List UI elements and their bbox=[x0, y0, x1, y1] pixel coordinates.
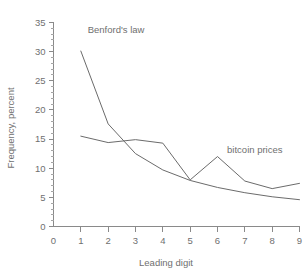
series-lines bbox=[81, 51, 300, 200]
y-tick-label: 35 bbox=[35, 17, 46, 28]
x-tick-label: 5 bbox=[188, 235, 193, 246]
y-tick-label: 30 bbox=[35, 46, 46, 57]
x-tick-label: 0 bbox=[51, 235, 56, 246]
y-axis: 05101520253035 bbox=[35, 17, 54, 232]
x-tick-label: 3 bbox=[133, 235, 138, 246]
benford-bitcoin-line-chart: 05101520253035 0123456789 Benford's lawb… bbox=[0, 0, 308, 274]
series-label-benfords-law: Benford's law bbox=[88, 24, 145, 35]
series-line-benfords-law bbox=[81, 51, 300, 200]
y-axis-title: Frequency, percent bbox=[5, 87, 16, 169]
x-tick-label: 8 bbox=[270, 235, 275, 246]
y-tick-label: 5 bbox=[40, 192, 45, 203]
chart-container: 05101520253035 0123456789 Benford's lawb… bbox=[0, 0, 308, 274]
x-axis: 0123456789 bbox=[51, 227, 302, 246]
x-tick-label: 6 bbox=[215, 235, 220, 246]
y-tick-label: 10 bbox=[35, 163, 46, 174]
x-tick-label: 9 bbox=[297, 235, 302, 246]
x-tick-label: 7 bbox=[242, 235, 247, 246]
series-label-bitcoin-prices: bitcoin prices bbox=[227, 144, 283, 155]
x-tick-label: 4 bbox=[160, 235, 165, 246]
x-tick-label: 2 bbox=[106, 235, 111, 246]
y-tick-label: 0 bbox=[40, 221, 45, 232]
x-axis-title: Leading digit bbox=[139, 257, 193, 268]
y-tick-label: 20 bbox=[35, 104, 46, 115]
series-labels: Benford's lawbitcoin prices bbox=[88, 24, 283, 155]
x-tick-label: 1 bbox=[78, 235, 83, 246]
y-tick-label: 25 bbox=[35, 75, 46, 86]
y-tick-label: 15 bbox=[35, 133, 46, 144]
